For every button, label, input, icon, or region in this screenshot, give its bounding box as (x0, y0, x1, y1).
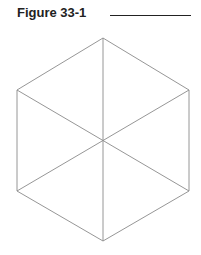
hexagon-diagram (0, 0, 201, 255)
